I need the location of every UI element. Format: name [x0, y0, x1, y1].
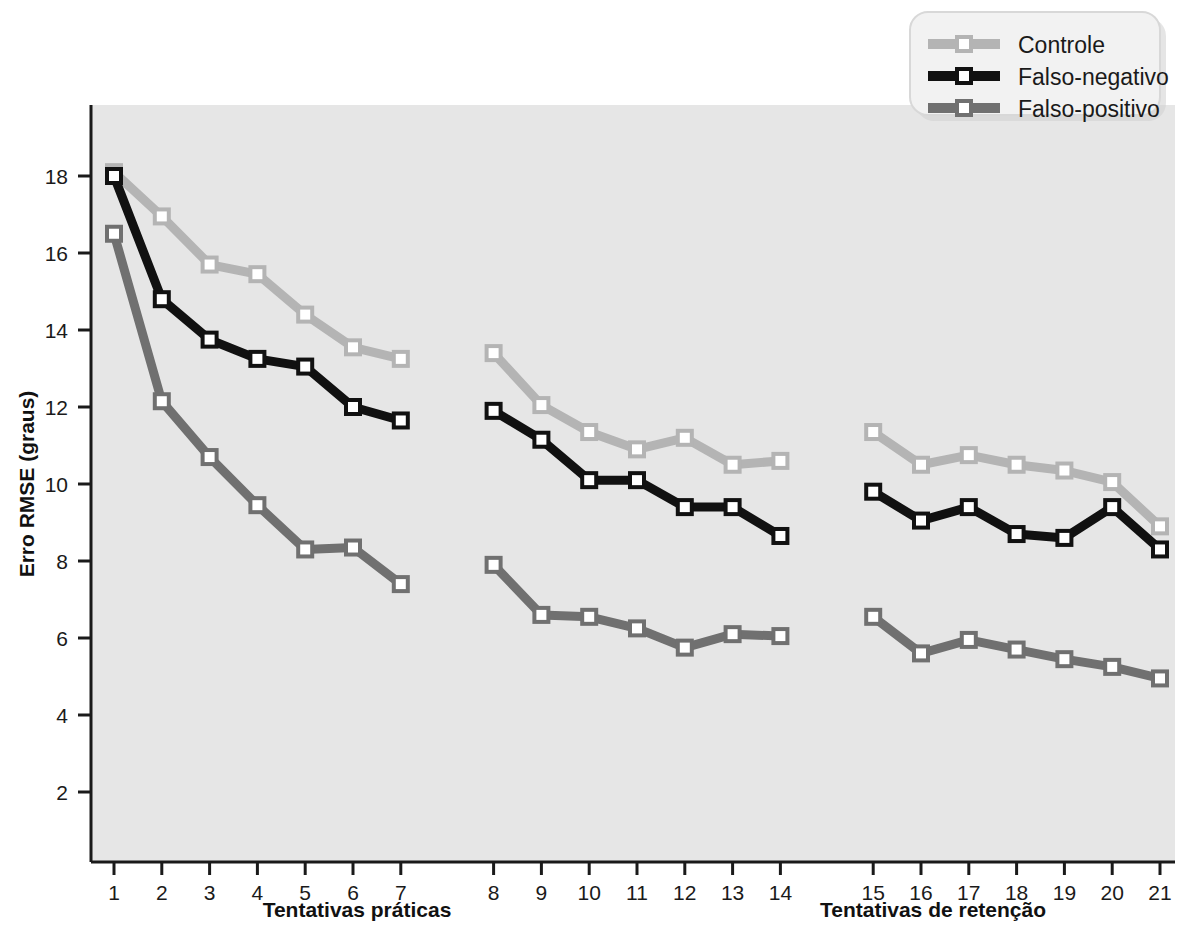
data-point-marker-inner: [348, 543, 358, 553]
y-axis-ticks: 24681012141618: [45, 165, 91, 804]
x-tick-label: 11: [626, 881, 648, 904]
data-point-marker-inner: [1012, 460, 1022, 470]
data-point-marker-inner: [728, 460, 738, 470]
y-tick-label: 8: [56, 550, 68, 573]
data-point-marker-inner: [300, 362, 310, 372]
y-tick-label: 6: [56, 627, 68, 650]
data-point-marker-inner: [252, 500, 262, 510]
data-point-marker-inner: [916, 648, 926, 658]
data-point-marker-inner: [775, 531, 785, 541]
y-axis-title: Erro RMSE (graus): [15, 391, 38, 578]
y-tick-label: 12: [45, 396, 68, 419]
x-tick-label: 2: [156, 881, 168, 904]
data-point-marker-inner: [964, 450, 974, 460]
data-point-marker-inner: [205, 335, 215, 345]
data-point-marker-inner: [775, 456, 785, 466]
x-tick-label: 21: [1148, 881, 1171, 904]
x-axis-title-practice: Tentativas práticas: [263, 898, 452, 921]
data-point-marker-inner: [584, 427, 594, 437]
x-tick-label: 3: [204, 881, 216, 904]
chart-legend[interactable]: ControleFalso-negativoFalso-positivo: [910, 12, 1169, 122]
chart-canvas: 24681012141618 1234567891011121314151617…: [0, 0, 1182, 946]
data-point-marker-inner: [489, 406, 499, 416]
data-point-marker-inner: [205, 260, 215, 270]
data-point-marker-inner: [348, 342, 358, 352]
data-point-marker-inner: [632, 444, 642, 454]
y-tick-label: 18: [45, 165, 68, 188]
data-point-marker-inner: [632, 475, 642, 485]
data-point-marker-inner: [584, 612, 594, 622]
x-tick-label: 14: [769, 881, 793, 904]
data-point-marker-inner: [396, 354, 406, 364]
x-axis-title-retention: Tentativas de retenção: [820, 898, 1046, 921]
y-tick-label: 4: [56, 704, 68, 727]
legend-item-label: Controle: [1018, 32, 1105, 58]
x-tick-label: 12: [673, 881, 696, 904]
data-point-marker-inner: [680, 643, 690, 653]
data-point-marker-inner: [536, 400, 546, 410]
data-point-marker-inner: [157, 396, 167, 406]
data-point-marker-inner: [680, 433, 690, 443]
data-point-marker-inner: [252, 269, 262, 279]
data-point-marker-inner: [1107, 477, 1117, 487]
x-tick-label: 1: [108, 881, 120, 904]
data-point-marker-inner: [728, 502, 738, 512]
data-point-marker-inner: [300, 310, 310, 320]
rmse-error-line-chart: 24681012141618 1234567891011121314151617…: [0, 0, 1182, 946]
data-point-marker-inner: [868, 427, 878, 437]
x-tick-label: 9: [536, 881, 548, 904]
data-point-marker-inner: [1107, 502, 1117, 512]
y-tick-label: 16: [45, 242, 68, 265]
data-point-marker-inner: [157, 294, 167, 304]
data-point-marker-inner: [300, 544, 310, 554]
data-point-marker-inner: [396, 415, 406, 425]
data-point-marker-inner: [489, 348, 499, 358]
data-point-marker-inner: [1012, 645, 1022, 655]
x-tick-label: 13: [721, 881, 744, 904]
data-point-marker-inner: [157, 211, 167, 221]
data-point-marker-inner: [536, 435, 546, 445]
data-point-marker-inner: [775, 631, 785, 641]
legend-marker-inner: [959, 39, 969, 49]
legend-item-label: Falso-positivo: [1018, 96, 1160, 122]
data-point-marker-inner: [1059, 466, 1069, 476]
legend-marker-inner: [959, 71, 969, 81]
data-point-marker-inner: [205, 452, 215, 462]
data-point-marker-inner: [1107, 662, 1117, 672]
data-point-marker-inner: [868, 487, 878, 497]
data-point-marker-inner: [868, 612, 878, 622]
data-point-marker-inner: [1155, 544, 1165, 554]
data-point-marker-inner: [252, 354, 262, 364]
data-point-marker-inner: [1155, 673, 1165, 683]
data-point-marker-inner: [964, 635, 974, 645]
data-point-marker-inner: [109, 229, 119, 239]
data-point-marker-inner: [916, 460, 926, 470]
x-tick-label: 20: [1101, 881, 1124, 904]
data-point-marker-inner: [1012, 529, 1022, 539]
data-point-marker-inner: [632, 623, 642, 633]
data-point-marker-inner: [1155, 521, 1165, 531]
x-tick-label: 8: [488, 881, 500, 904]
x-tick-label: 10: [578, 881, 601, 904]
data-point-marker-inner: [536, 610, 546, 620]
data-point-marker-inner: [1059, 654, 1069, 664]
data-point-marker-inner: [348, 402, 358, 412]
data-point-marker-inner: [584, 475, 594, 485]
data-point-marker-inner: [489, 560, 499, 570]
legend-marker-inner: [959, 103, 969, 113]
legend-item-label: Falso-negativo: [1018, 64, 1169, 90]
y-tick-label: 14: [45, 319, 69, 342]
data-point-marker-inner: [396, 579, 406, 589]
data-point-marker-inner: [1059, 533, 1069, 543]
data-point-marker-inner: [109, 171, 119, 181]
data-point-marker-inner: [680, 502, 690, 512]
y-tick-label: 2: [56, 781, 68, 804]
data-point-marker-inner: [964, 502, 974, 512]
data-point-marker-inner: [916, 516, 926, 526]
x-tick-label: 19: [1053, 881, 1076, 904]
y-tick-label: 10: [45, 473, 68, 496]
data-point-marker-inner: [728, 629, 738, 639]
